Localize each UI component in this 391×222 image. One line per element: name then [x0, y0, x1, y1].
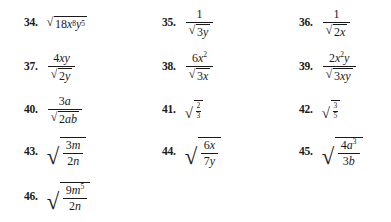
expression-41: √ 2 3 [185, 100, 203, 120]
denominator: √ 2ab [48, 110, 82, 126]
radicand: 2y [58, 68, 72, 83]
denominator: √ 3x [186, 67, 213, 83]
fraction: 9m5 2n [63, 184, 87, 212]
radicand: 3y [196, 24, 210, 39]
fraction: 1 √ 2x [323, 8, 350, 38]
radical-sign: √ [326, 23, 333, 38]
denominator: √ 2y [48, 67, 75, 83]
radical-sign: √ [189, 23, 196, 38]
denominator: 7y [201, 154, 218, 168]
numerator: 4a3 [338, 139, 360, 153]
radical-sign: √ [185, 137, 198, 167]
fraction: 2x2y √ 3xy [323, 52, 356, 82]
radicand: 3x [196, 68, 210, 83]
radical-sign: √ [51, 110, 58, 125]
problem-35: 35. 1 √ 3y [162, 10, 214, 36]
radical: √ 4a3 3b [322, 137, 363, 167]
problem-number: 44. [162, 146, 176, 158]
expression-40: 3a √ 2ab [47, 95, 83, 125]
problem-40: 40. 3a √ 2ab [24, 95, 83, 125]
exponent: 5 [80, 182, 84, 191]
denominator: √ 3xy [323, 67, 356, 83]
problem-number: 46. [24, 191, 38, 203]
radical-sign: √ [185, 100, 194, 120]
variable: y [203, 26, 208, 39]
radical: √ 2 3 [185, 100, 203, 120]
radicand: 6x 7y [198, 137, 221, 167]
problem-44: 44. √ 6x 7y [162, 136, 221, 168]
variable: y [65, 70, 70, 83]
variable-m: m [72, 138, 81, 152]
problem-43: 43. √ 3m 2n [24, 136, 86, 168]
problem-42: 42. √ 3 5 [299, 95, 340, 125]
expression-36: 1 √ 2x [322, 8, 351, 38]
expression-43: √ 3m 2n [47, 137, 87, 167]
radical-sign: √ [47, 137, 60, 167]
expression-44: √ 6x 7y [185, 137, 221, 167]
problem-number: 34. [24, 17, 38, 29]
fraction: 3 5 [333, 102, 339, 120]
exponent: 2 [203, 50, 207, 59]
fraction: 6x 7y [201, 139, 218, 167]
numerator: 3m [63, 139, 84, 153]
fraction: 4xy √ 2y [48, 52, 75, 82]
problem-number: 36. [299, 17, 313, 29]
denominator: 2n [66, 199, 84, 213]
expression-42: √ 3 5 [322, 100, 340, 120]
problem-36: 36. 1 √ 2x [299, 10, 351, 36]
radicand: 9m5 2n [60, 182, 90, 212]
radical: √ 3x [189, 68, 210, 83]
variable-n: n [73, 154, 79, 168]
radical: √ 2y [51, 68, 72, 83]
problem-grid: 34. √ 18 x8 y5 35. 1 [0, 0, 391, 222]
denominator: 2n [64, 154, 82, 168]
numerator: 2x2y [326, 52, 352, 66]
problem-number: 40. [24, 104, 38, 116]
variable-y: y [64, 51, 69, 65]
problem-34: 34. √ 18 x8 y5 [24, 10, 87, 36]
problem-41: 41. √ 2 3 [162, 95, 203, 125]
problem-39: 39. 2x2y √ 3xy [299, 52, 357, 82]
expression-34: √ 18 x8 y5 [47, 16, 87, 30]
radical: √ 2ab [51, 111, 79, 126]
numerator: 6x2 [189, 52, 210, 66]
radical-sign: √ [51, 67, 58, 82]
radical: √ 6x 7y [185, 137, 221, 167]
worksheet-page: 34. √ 18 x8 y5 35. 1 [0, 0, 391, 222]
variable-y: y [345, 70, 350, 83]
expression-38: 6x2 √ 3x [185, 52, 214, 82]
numerator: 1 [193, 8, 205, 22]
variable-b: b [71, 113, 77, 126]
problem-37: 37. 4xy √ 2y [24, 52, 76, 82]
radical: √ 2x [326, 24, 347, 39]
fraction: 2 3 [196, 102, 202, 120]
radicand: 3xy [333, 68, 353, 83]
radicand: 3m 2n [60, 137, 87, 167]
radical-sign: √ [189, 67, 196, 82]
problem-45: 45. √ 4a3 3b [299, 136, 363, 168]
problem-number: 38. [162, 61, 176, 73]
radical-sign: √ [322, 100, 331, 120]
problem-number: 41. [162, 104, 176, 116]
problem-46: 46. √ 9m5 2n [24, 181, 90, 213]
variable: x [203, 70, 208, 83]
radical: √ 9m5 2n [47, 182, 90, 212]
problem-number: 37. [24, 61, 38, 73]
radical-sign: √ [47, 182, 60, 212]
numerator: 9m5 [63, 184, 87, 198]
radical: √ 3 5 [322, 100, 340, 120]
numerator: 6x [201, 139, 218, 153]
radicand: 2 3 [194, 100, 204, 120]
numerator: 4xy [50, 52, 73, 66]
radicand: 18 x8 y5 [54, 16, 87, 30]
radicand: 4a3 3b [335, 137, 363, 167]
problem-number: 39. [299, 61, 313, 73]
variable: x [340, 26, 345, 39]
numerator: 2 [196, 102, 202, 110]
numerator: 3 [333, 102, 339, 110]
denominator: 3b [340, 154, 358, 168]
expression-37: 4xy √ 2y [47, 52, 76, 82]
expression-46: √ 9m5 2n [47, 182, 90, 212]
variable-n: n [75, 199, 81, 213]
fraction: 6x2 √ 3x [186, 52, 213, 82]
